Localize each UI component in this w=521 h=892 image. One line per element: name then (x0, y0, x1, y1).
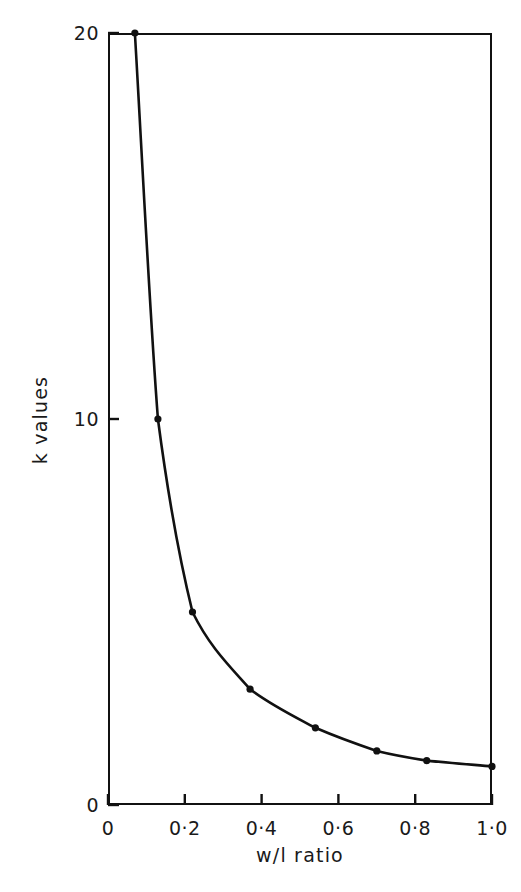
data-point-5 (373, 747, 380, 754)
x-tick-label-1: 0·2 (169, 819, 201, 838)
data-point-3 (246, 686, 253, 693)
chart-canvas (0, 0, 521, 892)
x-tick-label-4: 0·8 (399, 819, 431, 838)
x-tick-label-0: 0 (102, 819, 115, 838)
data-point-6 (423, 757, 430, 764)
data-point-1 (154, 415, 161, 422)
x-tick-label-2: 0·4 (246, 819, 278, 838)
x-axis-title: w/l ratio (256, 844, 344, 866)
data-point-7 (488, 763, 495, 770)
data-series-line (135, 33, 492, 766)
data-point-4 (312, 724, 319, 731)
x-axis-ticks (108, 794, 492, 805)
x-tick-label-3: 0·6 (323, 819, 355, 838)
chart-figure: 01020 00·20·40·60·81·0 k values w/l rati… (0, 0, 521, 892)
y-tick-label-1: 10 (74, 410, 99, 429)
data-series-markers (131, 29, 495, 770)
y-axis-title: k values (29, 376, 51, 464)
data-point-2 (189, 608, 196, 615)
y-tick-label-0: 0 (86, 796, 99, 815)
y-tick-label-2: 20 (74, 24, 99, 43)
y-axis-ticks (108, 33, 119, 805)
x-tick-label-5: 1·0 (476, 819, 508, 838)
data-point-0 (131, 29, 138, 36)
